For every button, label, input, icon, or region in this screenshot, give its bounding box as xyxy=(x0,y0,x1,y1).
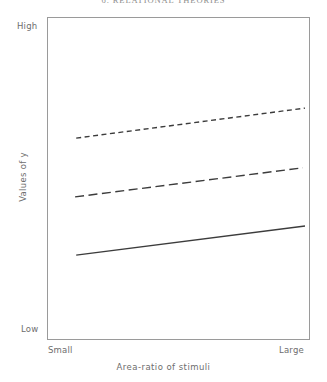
plot-lines xyxy=(47,17,310,340)
x-axis-tick-small: Small xyxy=(48,345,73,355)
y-axis-tick-high: High xyxy=(17,21,37,31)
figure-container: High Low Small Large Values of y Area-ra… xyxy=(0,0,327,382)
series-line-middle xyxy=(75,168,303,197)
x-axis-tick-large: Large xyxy=(279,345,304,355)
series-line-lower xyxy=(76,226,305,255)
x-axis-title: Area-ratio of stimuli xyxy=(0,362,327,372)
y-axis-tick-low: Low xyxy=(21,324,38,334)
y-axis-title: Values of y xyxy=(18,137,28,217)
series-line-upper xyxy=(76,108,305,138)
